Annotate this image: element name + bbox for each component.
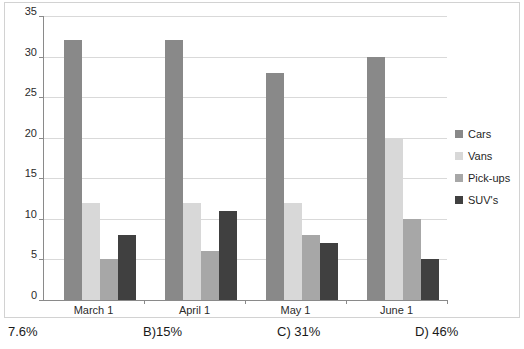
bar[interactable] (118, 235, 136, 300)
bar[interactable] (183, 203, 201, 300)
y-tick-mark (39, 97, 43, 98)
bar[interactable] (385, 138, 403, 300)
x-tick-label: June 1 (346, 303, 447, 317)
bar[interactable] (421, 259, 439, 300)
bars-layer (43, 16, 447, 300)
bar[interactable] (302, 235, 320, 300)
y-tick-mark (39, 219, 43, 220)
x-tick-label: May 1 (245, 303, 346, 317)
bar[interactable] (219, 211, 237, 300)
legend-item-pick-ups[interactable]: Pick-ups (455, 167, 519, 189)
legend-item-label: SUV's (468, 194, 498, 206)
y-tick-mark (39, 57, 43, 58)
chart-legend: CarsVansPick-upsSUV's (455, 123, 519, 211)
bar[interactable] (64, 40, 82, 300)
y-tick-label: 10 (7, 208, 37, 219)
chart-frame: 05101520253035 March 1April 1May 1June 1… (4, 2, 520, 318)
bar[interactable] (82, 203, 100, 300)
legend-item-label: Cars (468, 128, 491, 140)
legend-swatch-icon (455, 196, 463, 204)
legend-swatch-icon (455, 174, 463, 182)
y-tick-label: 15 (7, 168, 37, 179)
bar-group (266, 16, 338, 300)
legend-swatch-icon (455, 152, 463, 160)
y-tick-label: 30 (7, 46, 37, 57)
legend-swatch-icon (455, 130, 463, 138)
legend-item-suv-s[interactable]: SUV's (455, 189, 519, 211)
y-axis: 05101520253035 (5, 11, 37, 300)
answer-options-row: 7.6%B)15%C) 31%D) 46% (0, 323, 524, 349)
bar[interactable] (320, 243, 338, 300)
bar[interactable] (367, 57, 385, 300)
bar[interactable] (266, 73, 284, 300)
answer-option[interactable]: C) 31% (277, 323, 320, 341)
answer-option[interactable]: B)15% (143, 323, 182, 341)
y-tick-mark (39, 300, 43, 301)
bar[interactable] (201, 251, 219, 300)
bar[interactable] (165, 40, 183, 300)
y-tick-label: 0 (7, 290, 37, 301)
x-tick-label: March 1 (43, 303, 144, 317)
legend-item-label: Pick-ups (468, 172, 510, 184)
chart-title (5, 0, 519, 4)
y-tick-label: 35 (7, 6, 37, 17)
plot-area (43, 16, 447, 300)
answer-option[interactable]: D) 46% (415, 323, 458, 341)
legend-item-label: Vans (468, 150, 492, 162)
x-tick-mark (447, 300, 448, 304)
legend-item-cars[interactable]: Cars (455, 123, 519, 145)
y-tick-label: 25 (7, 87, 37, 98)
bar-group (165, 16, 237, 300)
bar-group (64, 16, 136, 300)
bar-group (367, 16, 439, 300)
y-tick-label: 5 (7, 249, 37, 260)
y-tick-label: 20 (7, 127, 37, 138)
legend-item-vans[interactable]: Vans (455, 145, 519, 167)
y-tick-mark (39, 16, 43, 17)
y-tick-mark (39, 259, 43, 260)
bar[interactable] (403, 219, 421, 300)
answer-option[interactable]: 7.6% (8, 323, 38, 341)
x-axis: March 1April 1May 1June 1 (43, 303, 447, 319)
bar[interactable] (100, 259, 118, 300)
y-tick-mark (39, 178, 43, 179)
x-tick-label: April 1 (144, 303, 245, 317)
bar[interactable] (284, 203, 302, 300)
y-tick-mark (39, 138, 43, 139)
